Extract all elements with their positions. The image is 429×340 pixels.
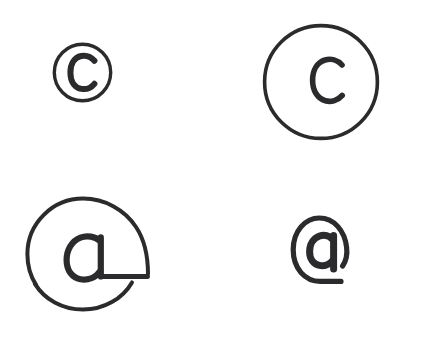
circled-c-inner-letter-c-icon: [313, 59, 343, 101]
glyph-open-ring-at-sign: [24, 194, 152, 314]
glyph-bold-at-sign: [290, 214, 354, 286]
sketch-canvas: © ⓒ @: [0, 0, 429, 340]
copyright-outer-ring-icon: [54, 44, 110, 100]
bold-at-sign-inner-letter-a-bowl-icon: [310, 235, 333, 265]
at-sign-inner-letter-a-bowl-icon: [67, 236, 100, 279]
at-sign-outer-ring-lower-arc-icon: [35, 282, 132, 309]
circled-c-outer-ring-icon: [265, 26, 378, 139]
at-sign-outer-ring-upper-icon: [27, 199, 148, 286]
copyright-inner-letter-c-icon: [70, 56, 94, 89]
glyph-circled-c: [262, 23, 380, 141]
bold-at-sign-outer-ring-icon: [293, 218, 347, 281]
glyph-copyright-sign: [51, 41, 114, 104]
